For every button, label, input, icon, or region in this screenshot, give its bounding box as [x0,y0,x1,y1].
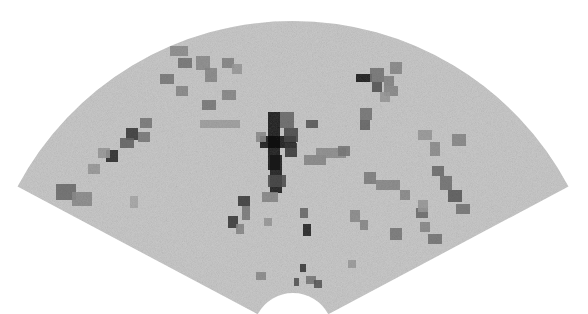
fan-sector [18,21,569,314]
echo-block [88,164,100,174]
echo-block [452,134,466,146]
echo-block [140,118,152,128]
echo-block [280,112,294,128]
sonar-fan-image [0,0,588,314]
echo-block [222,90,236,100]
echo-block [232,64,242,74]
echo-block [360,120,370,130]
echo-block [262,192,278,202]
echo-block [236,224,244,234]
echo-block [372,82,382,92]
echo-block [384,76,394,86]
echo-block [72,192,92,206]
echo-block [380,92,390,102]
echo-block [264,218,272,226]
echo-block [303,224,311,236]
echo-block [448,190,462,202]
echo-block [300,208,308,218]
echo-block [98,148,110,158]
echo-block [205,68,217,82]
echo-block [420,222,430,232]
echo-block [256,132,266,142]
echo-block [440,176,452,190]
echo-block [285,143,297,157]
echo-block [428,234,442,244]
echo-block [390,62,402,74]
echo-block [202,100,216,110]
echo-block [270,155,282,193]
echo-block [170,46,188,56]
echo-block [200,120,240,128]
echo-block [356,74,372,82]
echo-block [160,74,174,84]
echo-block [268,175,286,187]
echo-block [238,196,250,206]
echo-block [370,68,384,82]
echo-block [120,138,134,148]
echo-block [418,200,428,212]
echo-block [294,278,299,286]
echo-block [176,86,188,96]
echo-block [138,132,150,142]
echo-block [256,272,266,280]
echo-block [338,146,350,156]
echo-block [284,128,298,142]
echo-block [348,260,356,268]
echo-block [364,172,376,184]
echo-block [360,220,368,230]
echo-block [360,108,372,120]
echo-block [130,196,138,208]
echo-block [242,206,250,220]
echo-block [196,56,210,70]
echo-block [300,264,306,272]
echo-block [456,204,470,214]
echo-block [376,180,400,190]
echo-block [178,58,192,68]
echo-block [350,210,360,222]
echo-block [400,190,410,200]
echo-block [432,166,444,176]
echo-block [314,280,322,288]
echo-block [306,120,318,128]
echo-block [430,142,440,156]
echo-block [418,130,432,140]
echo-block [390,228,402,240]
